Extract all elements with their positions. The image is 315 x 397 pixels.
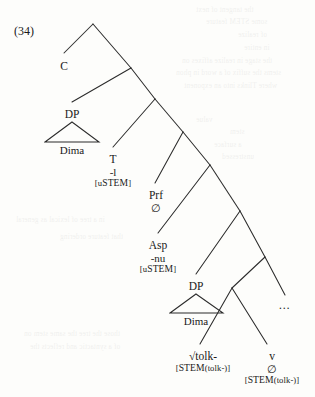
- t-feature-stem: STEM: [102, 177, 128, 188]
- node-dp-object: DP: [189, 280, 204, 293]
- node-dp-spec-terminal: Dima: [60, 144, 84, 156]
- node-dp-object-terminal: Dima: [184, 315, 208, 327]
- node-c: C: [60, 60, 68, 73]
- node-ellipsis-label: …: [278, 299, 291, 312]
- v-feature-close: ]: [296, 375, 299, 385]
- figure-container: the tangent of nextsome STEM featureof r…: [0, 0, 315, 397]
- node-v-feature: [STEM(tolk-)]: [245, 375, 300, 386]
- node-v: v ∅ [STEM(tolk-)]: [245, 350, 300, 386]
- node-dp-spec: DP: [65, 108, 80, 121]
- node-c-label: C: [60, 60, 68, 73]
- node-ellipsis: …: [278, 299, 291, 312]
- node-dp-object-label: DP: [189, 280, 204, 293]
- node-prf-exponent: ∅: [149, 202, 163, 214]
- t-feature-close: ]: [128, 178, 131, 188]
- dp-spec-triangle: [44, 120, 102, 144]
- example-number: (34): [14, 24, 34, 39]
- v-feature-stem: STEM: [248, 374, 274, 385]
- node-asp-feature: [uSTEM]: [140, 264, 176, 275]
- asp-feature-close: ]: [173, 264, 176, 274]
- node-t-label: T: [95, 153, 131, 166]
- dp-object-terminal-label: Dima: [184, 315, 208, 327]
- node-root: √tolk- [STEM(tolk-)]: [176, 350, 231, 374]
- asp-feature-stem: STEM: [147, 263, 173, 274]
- root-feature-close: ]: [227, 363, 230, 373]
- root-feature-arg: (tolk-): [205, 363, 228, 373]
- node-prf-label: Prf: [149, 189, 163, 202]
- node-asp-label: Asp: [140, 239, 176, 252]
- node-root-feature: [STEM(tolk-)]: [176, 363, 231, 374]
- node-asp: Asp -nu [uSTEM]: [140, 239, 176, 275]
- dp-object-triangle: [169, 292, 225, 315]
- node-t: T -l [uSTEM]: [95, 153, 131, 189]
- v-feature-arg: (tolk-): [274, 375, 297, 385]
- node-t-feature: [uSTEM]: [95, 178, 131, 189]
- node-prf: Prf ∅: [149, 189, 163, 214]
- node-dp-spec-label: DP: [65, 108, 80, 121]
- node-v-label: v: [245, 350, 300, 363]
- root-feature-stem: STEM: [179, 362, 205, 373]
- dp-spec-terminal-label: Dima: [60, 144, 84, 156]
